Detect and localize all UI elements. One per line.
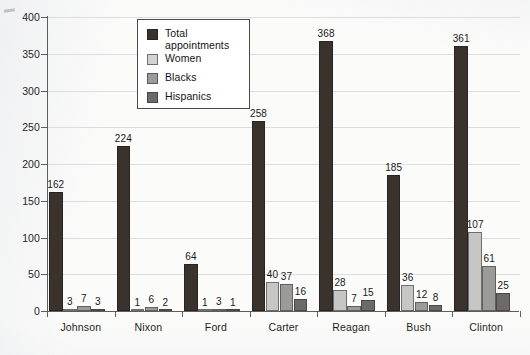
y-tick-label: 400 [6, 11, 40, 23]
y-tick-label-wrap: 0 [0, 305, 40, 317]
bar-chart: 1623732241626413125840371636828715185361… [0, 0, 530, 355]
bar-value-label: 37 [274, 271, 300, 282]
gridline [47, 54, 520, 55]
legend-swatch [147, 73, 158, 84]
y-tick-label-wrap: 100 [0, 232, 40, 244]
bar-value-label: 64 [178, 251, 204, 262]
y-tick-mark [41, 17, 47, 18]
legend-label: Blacks [165, 72, 251, 84]
y-tick-label: 250 [6, 121, 40, 133]
bar-value-label: 3 [85, 296, 111, 307]
y-tick-label-wrap: 300 [0, 85, 40, 97]
y-tick-mark [41, 274, 47, 275]
y-tick-label-wrap: 50 [0, 268, 40, 280]
y-tick-mark [41, 127, 47, 128]
y-tick-mark [41, 164, 47, 165]
y-tick-label-wrap: 250 [0, 121, 40, 133]
legend-item: Blacks [147, 72, 251, 84]
bar [454, 46, 468, 311]
x-category-label: Clinton [452, 321, 520, 333]
gridline [47, 91, 520, 92]
legend-swatch [147, 54, 158, 65]
x-category-label: Ford [182, 321, 250, 333]
y-tick-label: 350 [6, 48, 40, 60]
y-tick-mark [41, 54, 47, 55]
gridline [47, 17, 520, 18]
bar-value-label: 361 [448, 33, 474, 44]
x-tick-mark [115, 311, 116, 317]
bar-value-label: 258 [246, 108, 272, 119]
legend-item: Hispanics [147, 91, 251, 103]
legend-label: Total appointments [165, 28, 251, 51]
chart-legend: Total appointmentsWomenBlacksHispanics [137, 19, 250, 109]
bar [415, 302, 429, 311]
y-tick-label: 0 [6, 305, 40, 317]
bar-value-label: 16 [288, 286, 314, 297]
legend-swatch [147, 92, 158, 103]
y-tick-label: 150 [6, 195, 40, 207]
bar [252, 121, 266, 311]
bar [468, 232, 482, 311]
x-category-label: Nixon [115, 321, 183, 333]
bar [294, 299, 308, 311]
y-tick-mark [41, 91, 47, 92]
bar-value-label: 224 [111, 133, 137, 144]
y-tick-label: 50 [6, 268, 40, 280]
y-tick-label: 100 [6, 232, 40, 244]
bar [266, 282, 280, 311]
bar-value-label: 25 [490, 280, 516, 291]
legend-label: Women [165, 53, 251, 65]
bar-value-label: 15 [355, 287, 381, 298]
x-tick-mark [317, 311, 318, 317]
y-tick-label-wrap: 150 [0, 195, 40, 207]
y-tick-label: 200 [6, 158, 40, 170]
x-tick-mark [452, 311, 453, 317]
bar-value-label: 8 [423, 292, 449, 303]
x-tick-mark [385, 311, 386, 317]
bar [49, 192, 63, 311]
bar-value-label: 368 [313, 28, 339, 39]
bar-value-label: 61 [476, 253, 502, 264]
gridline [47, 127, 520, 128]
x-tick-mark [520, 311, 521, 317]
x-axis-line [47, 311, 519, 312]
y-tick-mark [41, 238, 47, 239]
bar [387, 175, 401, 311]
x-tick-mark [47, 311, 48, 317]
y-tick-label-wrap: 200 [0, 158, 40, 170]
y-tick-label-wrap: 350 [0, 48, 40, 60]
legend-item: Total appointments [147, 28, 251, 51]
bar [319, 41, 333, 311]
x-tick-mark [250, 311, 251, 317]
legend-swatch [147, 29, 158, 40]
x-tick-mark [182, 311, 183, 317]
y-tick-label: 300 [6, 85, 40, 97]
plot-area: 1623732241626413125840371636828715185361… [47, 17, 520, 311]
legend-label: Hispanics [165, 91, 251, 103]
bar [496, 293, 510, 311]
bar-value-label: 1 [220, 297, 246, 308]
bar-value-label: 107 [462, 219, 488, 230]
bar-value-label: 2 [153, 297, 179, 308]
bar-value-label: 185 [381, 162, 407, 173]
legend-item: Women [147, 53, 251, 65]
bar [117, 146, 131, 311]
y-tick-mark [41, 201, 47, 202]
bar-value-label: 36 [395, 272, 421, 283]
y-axis-line [47, 16, 48, 312]
y-tick-label-wrap: 400 [0, 11, 40, 23]
x-category-label: Bush [385, 321, 453, 333]
x-category-label: Reagan [317, 321, 385, 333]
bar [361, 300, 375, 311]
x-category-label: Johnson [47, 321, 115, 333]
bar-value-label: 28 [327, 277, 353, 288]
x-category-label: Carter [250, 321, 318, 333]
